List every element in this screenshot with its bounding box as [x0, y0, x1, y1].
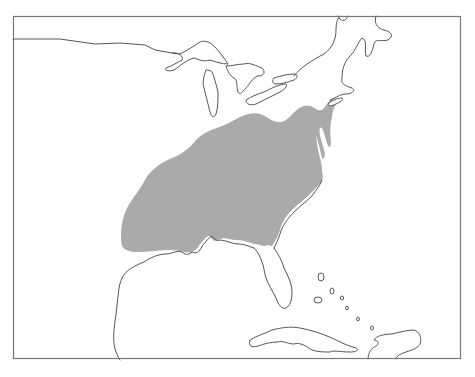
lake-superior — [165, 41, 228, 71]
lake-ontario — [273, 74, 297, 84]
lake-michigan — [203, 70, 218, 117]
lake-erie — [246, 84, 287, 105]
gulf-coast — [114, 236, 254, 360]
bahamas-island-3 — [314, 297, 322, 303]
florida-peninsula — [254, 248, 292, 308]
cuba — [249, 327, 357, 352]
long-island — [328, 98, 343, 106]
northern-border-line — [13, 39, 172, 53]
maritime-coast — [330, 16, 391, 100]
lake-huron — [226, 63, 264, 93]
range-map — [0, 0, 475, 377]
hispaniola — [368, 330, 421, 359]
bahamas-island-4 — [340, 296, 343, 300]
bahamas-island-6 — [357, 317, 360, 321]
bahamas-island-5 — [346, 306, 349, 310]
bahamas-island-2 — [330, 288, 334, 294]
bahamas-island-7 — [370, 326, 373, 330]
st-lawrence-coast — [294, 16, 340, 76]
shaded-range-area — [121, 99, 336, 252]
map-container — [0, 0, 475, 377]
bahamas-island-1 — [318, 273, 324, 281]
